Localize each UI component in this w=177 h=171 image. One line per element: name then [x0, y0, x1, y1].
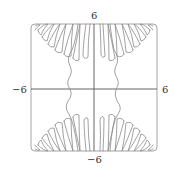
y-max-label: 6	[91, 11, 97, 21]
x-max-label: 6	[162, 85, 168, 95]
x-min-label: −6	[12, 85, 27, 95]
y-min-label: −6	[87, 155, 102, 165]
right-wavy-curve	[110, 24, 120, 151]
